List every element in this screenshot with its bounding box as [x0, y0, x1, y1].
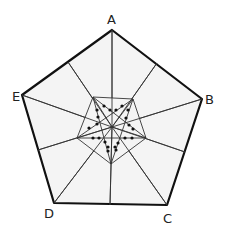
dot	[106, 149, 109, 152]
pentagon-diagram: A B C D E	[0, 0, 225, 232]
vertex-label-a: A	[107, 12, 116, 27]
dot	[102, 104, 105, 107]
vertex-label-e: E	[12, 89, 20, 104]
dot	[120, 104, 123, 107]
dot	[108, 108, 111, 111]
dot	[106, 145, 109, 148]
dot	[91, 136, 94, 139]
dot	[116, 141, 119, 144]
dot	[114, 148, 117, 151]
dot	[113, 145, 116, 148]
dot	[124, 116, 127, 119]
dot	[127, 123, 130, 126]
dot	[103, 140, 106, 143]
dot	[96, 115, 99, 118]
vertex-label-c: C	[163, 211, 172, 226]
vertex-label-d: D	[44, 206, 54, 221]
dot	[95, 108, 98, 111]
vertex-label-b: B	[205, 92, 214, 107]
dot	[123, 136, 126, 139]
dot	[126, 108, 129, 111]
dot	[97, 136, 100, 139]
dot	[131, 127, 134, 130]
dot	[130, 136, 133, 139]
dot	[95, 122, 98, 125]
dot	[87, 126, 90, 129]
dot	[114, 108, 117, 111]
